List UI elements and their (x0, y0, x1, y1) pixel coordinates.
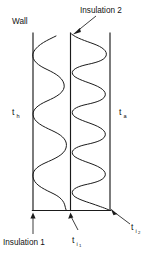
t-i1-leader-line (72, 218, 79, 231)
t-ambient-label-group: t a (119, 107, 127, 119)
right-chamber-wave-group (72, 34, 110, 210)
t-hot-subscript-label: h (16, 113, 19, 119)
t-i1-subsubscript-label: 1 (79, 243, 82, 248)
t-hot-base-label: t (12, 107, 15, 117)
wall-label-group: Wall (12, 17, 28, 26)
t-ambient-subscript-label: a (123, 113, 127, 119)
wall-label: Wall (12, 17, 28, 26)
t-i2-subsubscript-label: 2 (138, 230, 141, 235)
t-i1-arrow-head (68, 213, 73, 219)
t-i2-base-label: t (131, 222, 134, 232)
t-i2-leader-line (116, 214, 130, 225)
t-i1-annotation: t i 1 (68, 213, 82, 249)
insulation-1-annotation: Insulation 1 (3, 213, 45, 248)
insulation-2-label: Insulation 2 (80, 6, 122, 15)
insulation-2-leader-line (78, 16, 96, 31)
t-i2-subscript-label: i (135, 228, 136, 234)
t-i2-annotation: t i 2 (111, 209, 142, 236)
insulation-1-arrow-head (30, 213, 35, 219)
insulation-2-arrow-head (73, 28, 81, 35)
left-chamber-wave-group (33, 36, 67, 210)
t-hot-label-group: t h (12, 107, 20, 119)
insulation-1-label: Insulation 1 (3, 238, 45, 247)
t-ambient-base-label: t (119, 107, 122, 117)
insulation-2-annotation: Insulation 2 (73, 6, 123, 35)
t-i1-subscript-label: i (76, 241, 77, 247)
insulation-wall-diagram: Wall Insulation 2 t h t a t i 2 (0, 0, 160, 255)
diagram-canvas: Wall Insulation 2 t h t a t i 2 (0, 0, 160, 255)
insulation-1-temperature-wave (33, 36, 67, 210)
insulation-2-temperature-wave (72, 34, 110, 210)
t-i1-base-label: t (72, 235, 75, 245)
wall-structure (32, 33, 110, 211)
